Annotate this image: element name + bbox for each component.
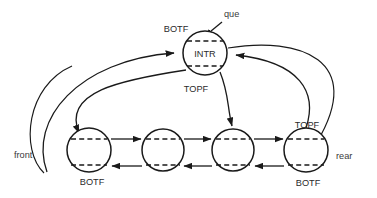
node-queue-item-1[interactable] bbox=[67, 128, 111, 172]
edge-node4-to-intr bbox=[236, 55, 309, 128]
edge-intr-to-node3 bbox=[220, 72, 232, 126]
node-interior-inner-label: INTR bbox=[194, 49, 216, 59]
node-queue-item-4[interactable] bbox=[284, 128, 328, 172]
node-queue-item-3[interactable] bbox=[212, 129, 254, 171]
label-pointer-que: que bbox=[224, 9, 239, 19]
label-pointer-front: front bbox=[14, 150, 33, 160]
edge-front-to-node1 bbox=[30, 66, 72, 173]
label-node-1-botf: BOTF bbox=[80, 177, 105, 187]
label-interior-botf: BOTF bbox=[164, 24, 189, 34]
diagram-canvas: INTR BOTF TOPF BOTF T bbox=[0, 0, 377, 198]
label-interior-topf: TOPF bbox=[184, 84, 209, 94]
label-node-4-topf: TOPF bbox=[295, 120, 320, 130]
node-interior[interactable]: INTR bbox=[183, 31, 227, 75]
label-node-4-botf: BOTF bbox=[296, 178, 321, 188]
edge-intr-to-node1 bbox=[76, 70, 186, 133]
queue-diagram: INTR BOTF TOPF BOTF T bbox=[0, 0, 377, 198]
node-queue-item-2[interactable] bbox=[142, 129, 184, 171]
label-pointer-rear: rear bbox=[336, 151, 352, 161]
